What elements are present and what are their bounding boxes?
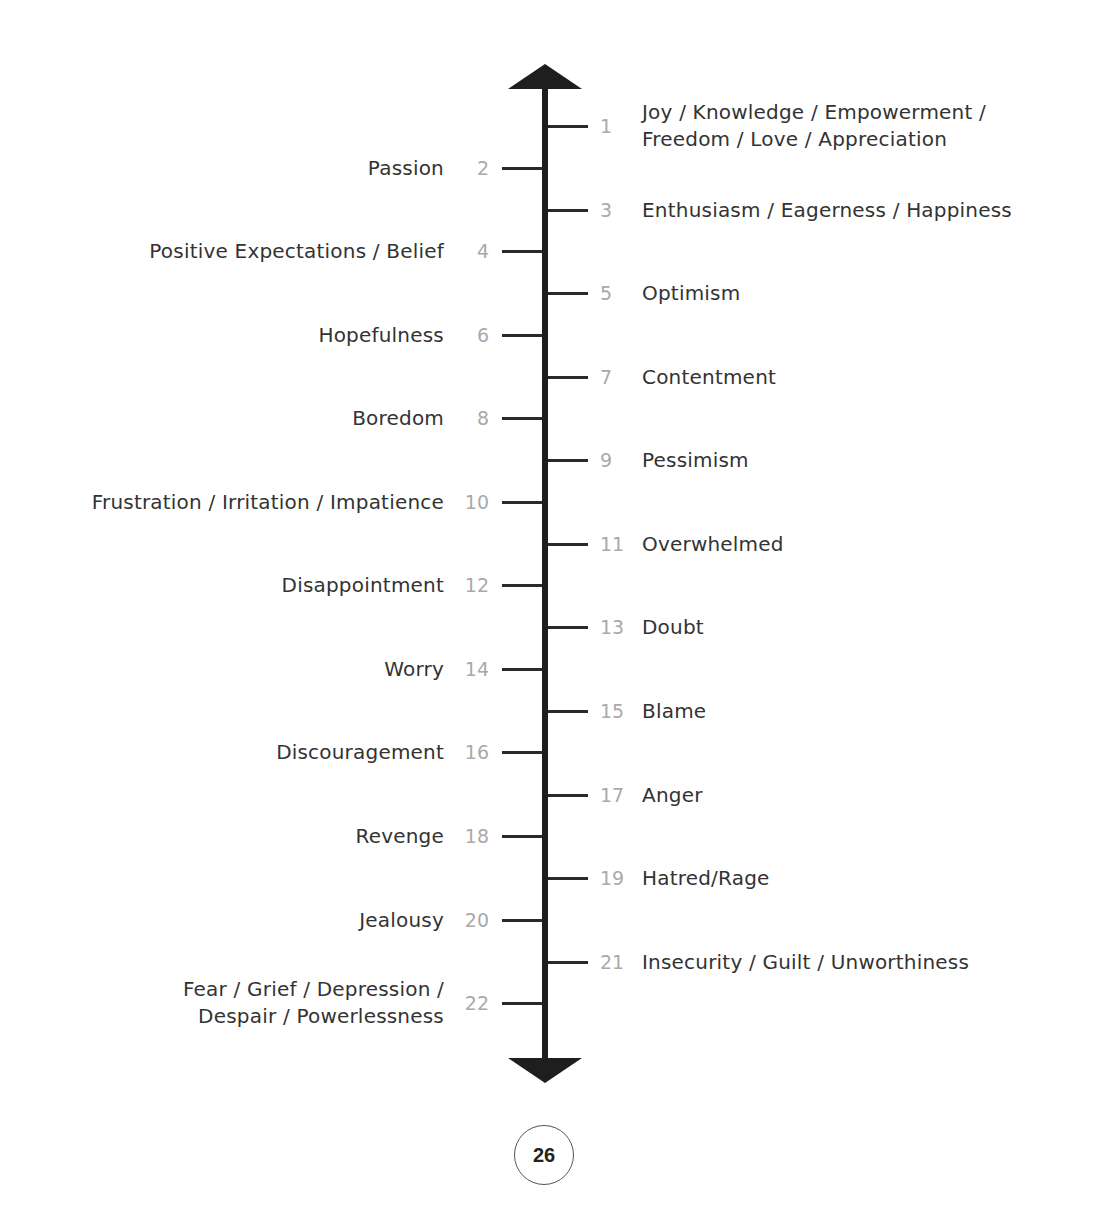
emotion-label: Passion: [368, 155, 444, 182]
emotion-label: Revenge: [355, 823, 444, 850]
emotion-label: Joy / Knowledge / Empowerment /Freedom /…: [642, 99, 986, 153]
emotion-label-line: Fear / Grief / Depression /: [183, 976, 444, 1003]
tick-mark: [502, 250, 542, 253]
page-number: 26: [514, 1125, 574, 1185]
level-number: 16: [455, 740, 489, 764]
tick-mark: [502, 334, 542, 337]
level-number: 11: [600, 532, 630, 556]
tick-mark: [502, 668, 542, 671]
level-number: 18: [455, 824, 489, 848]
emotion-label-line: Boredom: [352, 405, 444, 432]
emotion-label-line: Hatred/Rage: [642, 865, 770, 892]
tick-mark: [548, 125, 588, 128]
tick-mark: [548, 961, 588, 964]
emotion-label-line: Frustration / Irritation / Impatience: [92, 489, 444, 516]
emotion-label-line: Passion: [368, 155, 444, 182]
emotion-label-line: Revenge: [355, 823, 444, 850]
emotion-label: Positive Expectations / Belief: [149, 238, 444, 265]
emotion-label-line: Overwhelmed: [642, 531, 784, 558]
tick-mark: [502, 584, 542, 587]
emotion-label-line: Positive Expectations / Belief: [149, 238, 444, 265]
emotion-label-line: Blame: [642, 698, 706, 725]
emotion-label: Insecurity / Guilt / Unworthiness: [642, 949, 969, 976]
tick-mark: [548, 794, 588, 797]
emotion-label: Pessimism: [642, 447, 749, 474]
tick-mark: [502, 1002, 542, 1005]
tick-mark: [502, 167, 542, 170]
emotion-label: Blame: [642, 698, 706, 725]
level-number: 5: [600, 281, 630, 305]
emotion-label: Disappointment: [282, 572, 444, 599]
emotion-label: Optimism: [642, 280, 740, 307]
emotion-label-line: Despair / Powerlessness: [183, 1003, 444, 1030]
level-number: 10: [455, 490, 489, 514]
emotion-label: Jealousy: [359, 907, 444, 934]
level-number: 9: [600, 448, 630, 472]
level-number: 8: [455, 406, 489, 430]
emotion-label-line: Doubt: [642, 614, 704, 641]
level-number: 15: [600, 699, 630, 723]
level-number: 6: [455, 323, 489, 347]
emotion-label: Boredom: [352, 405, 444, 432]
level-number: 20: [455, 908, 489, 932]
tick-mark: [548, 376, 588, 379]
tick-mark: [548, 626, 588, 629]
emotion-label: Hatred/Rage: [642, 865, 770, 892]
level-number: 1: [600, 114, 630, 138]
emotion-label: Frustration / Irritation / Impatience: [92, 489, 444, 516]
emotion-label-line: Insecurity / Guilt / Unworthiness: [642, 949, 969, 976]
level-number: 2: [455, 156, 489, 180]
emotional-scale-diagram: 1Joy / Knowledge / Empowerment /Freedom …: [0, 0, 1094, 1215]
emotion-label: Enthusiasm / Eagerness / Happiness: [642, 197, 1012, 224]
level-number: 21: [600, 950, 630, 974]
level-number: 19: [600, 866, 630, 890]
arrow-down-icon: [508, 1058, 582, 1083]
emotion-label: Hopefulness: [318, 322, 444, 349]
emotion-label-line: Enthusiasm / Eagerness / Happiness: [642, 197, 1012, 224]
emotion-label-line: Freedom / Love / Appreciation: [642, 126, 986, 153]
tick-mark: [548, 710, 588, 713]
tick-mark: [502, 919, 542, 922]
emotion-label-line: Pessimism: [642, 447, 749, 474]
tick-mark: [502, 835, 542, 838]
tick-mark: [548, 209, 588, 212]
level-number: 22: [455, 991, 489, 1015]
emotion-label: Anger: [642, 782, 703, 809]
emotion-label-line: Joy / Knowledge / Empowerment /: [642, 99, 986, 126]
level-number: 7: [600, 365, 630, 389]
emotion-label-line: Optimism: [642, 280, 740, 307]
level-number: 3: [600, 198, 630, 222]
emotion-label-line: Disappointment: [282, 572, 444, 599]
emotion-label-line: Discouragement: [276, 739, 444, 766]
level-number: 12: [455, 573, 489, 597]
emotion-label: Worry: [384, 656, 444, 683]
emotion-label-line: Jealousy: [359, 907, 444, 934]
emotion-label-line: Anger: [642, 782, 703, 809]
emotion-label-line: Contentment: [642, 364, 776, 391]
tick-mark: [502, 417, 542, 420]
emotion-label: Fear / Grief / Depression /Despair / Pow…: [183, 976, 444, 1030]
emotion-label-line: Worry: [384, 656, 444, 683]
emotion-label: Doubt: [642, 614, 704, 641]
tick-mark: [548, 292, 588, 295]
tick-mark: [502, 751, 542, 754]
tick-mark: [502, 501, 542, 504]
tick-mark: [548, 877, 588, 880]
level-number: 4: [455, 239, 489, 263]
emotion-label: Discouragement: [276, 739, 444, 766]
emotion-label-line: Hopefulness: [318, 322, 444, 349]
tick-mark: [548, 459, 588, 462]
emotion-label: Contentment: [642, 364, 776, 391]
level-number: 14: [455, 657, 489, 681]
tick-mark: [548, 543, 588, 546]
vertical-axis: [542, 82, 548, 1064]
level-number: 13: [600, 615, 630, 639]
emotion-label: Overwhelmed: [642, 531, 784, 558]
level-number: 17: [600, 783, 630, 807]
